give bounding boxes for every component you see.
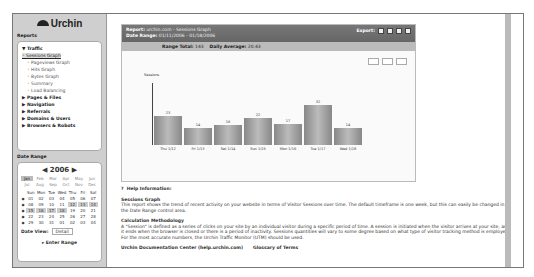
enter-range-link[interactable]: ▸ Enter Range [21,240,98,245]
nav-item[interactable]: ◦ Hits Graph [22,66,97,73]
bar-chart-icon[interactable] [368,58,379,65]
nav-item[interactable]: ◦ Summary [22,80,97,87]
day-cell[interactable]: 28 [89,214,98,219]
documentation-link[interactable]: Urchin Documentation Center (help.urchin… [121,245,243,251]
date-range-title: Date Range [13,153,106,160]
urchin-logo-icon [37,20,49,26]
nav-item[interactable]: ▶ Referrals [22,108,97,115]
day-cell[interactable]: 21 [89,208,98,213]
day-cell[interactable]: 27 [78,214,87,219]
month-cell[interactable]: Jun [86,176,98,181]
day-cell[interactable]: 09 [36,202,45,207]
month-cell[interactable]: Jan [21,176,33,181]
day-cell[interactable]: 19 [68,208,77,213]
glossary-link[interactable]: Glossary of Terms [253,245,298,251]
month-cell[interactable]: Nov [73,182,85,187]
day-cell[interactable]: 08 [26,202,35,207]
nav-item[interactable]: ▼ Traffic [22,45,97,52]
nav-item[interactable]: ◦ Load Balancing [22,87,97,94]
report-header: Report: urchin.com - Sessions Graph Date… [122,25,415,42]
month-cell[interactable]: Aug [34,182,46,187]
export-xml-icon[interactable] [387,28,393,34]
month-grid: JanFebMarAprMayJunJulAugSepOctNovDec [21,176,98,187]
week-select[interactable]: ◆ [21,196,25,201]
day-cell[interactable]: 04 [89,220,98,225]
month-cell[interactable]: May [73,176,85,181]
nav-item[interactable]: ◦ Pageviews Graph [22,59,97,66]
export-toolbar: Export: [357,28,411,34]
line-chart-icon[interactable] [396,58,407,65]
day-cell[interactable]: 24 [47,214,56,219]
day-cell[interactable]: 16 [36,208,45,213]
month-cell[interactable]: Oct [60,182,72,187]
bar: 32Tue 1/17 [304,105,332,145]
week-select[interactable]: ◆ [21,208,25,213]
reports-nav: ▼ Traffic◦ Sessions Graph◦ Pageviews Gra… [17,41,102,151]
day-cell[interactable]: 12 [68,202,77,207]
calendar: ◀ 2006 ▶ JanFebMarAprMayJunJulAugSepOctN… [17,162,102,262]
day-cell[interactable]: 20 [78,208,87,213]
bar: 14Fri 1/13 [184,128,212,145]
day-cell[interactable]: 02 [68,220,77,225]
day-cell[interactable]: 10 [47,202,56,207]
nav-item[interactable]: ▶ Browsers & Robots [22,122,97,129]
month-cell[interactable]: Sep [47,182,59,187]
bar-series: 23Thu 1/1214Fri 1/1316Sat 1/1422Sun 1/15… [153,83,363,145]
nav-item[interactable]: ◦ Sessions Graph [22,52,97,59]
main-content: Report: urchin.com - Sessions Graph Date… [111,14,511,267]
sessions-chart: Sessions 23Thu 1/1214Fri 1/1316Sat 1/142… [152,75,372,175]
help-icon: ? [121,186,124,192]
nav-item[interactable]: ▶ Domains & Users [22,115,97,122]
month-cell[interactable]: Apr [60,176,72,181]
year-selector[interactable]: ◀ 2006 ▶ [21,166,98,174]
day-cell[interactable]: 03 [78,220,87,225]
day-cell[interactable]: 26 [68,214,77,219]
urchin-logo: Urchin [13,14,106,32]
app-window: Urchin Reports ▼ Traffic◦ Sessions Graph… [12,13,524,268]
day-cell[interactable]: 01 [57,220,66,225]
day-cell[interactable]: 22 [26,214,35,219]
day-cell[interactable]: 03 [47,196,56,201]
day-cell[interactable]: 14 [89,202,98,207]
month-cell[interactable]: Feb [34,176,46,181]
scrollbar[interactable] [505,14,511,267]
week-select[interactable]: ◆ [21,220,25,225]
bar: 22Sun 1/15 [244,118,272,145]
day-cell[interactable]: 29 [26,220,35,225]
month-cell[interactable]: Jul [21,182,33,187]
day-cell[interactable]: 11 [57,202,66,207]
date-view-select[interactable]: Detail [52,228,73,235]
month-cell[interactable]: Dec [86,182,98,187]
day-cell[interactable]: 13 [78,202,87,207]
bar-chart-3d-icon[interactable] [382,58,393,65]
day-cell[interactable]: 25 [57,214,66,219]
nav-item[interactable]: ◦ Bytes Graph [22,73,97,80]
day-cell[interactable]: 05 [68,196,77,201]
day-cell[interactable]: 30 [36,220,45,225]
day-cell[interactable]: 17 [47,208,56,213]
print-icon[interactable] [405,28,411,34]
nav-item[interactable]: ▶ Pages & Files [22,94,97,101]
help-section: ?Help Information: Sessions Graph This r… [121,186,511,251]
day-cell[interactable]: 31 [47,220,56,225]
day-grid: SunMonTueWedThuFriSat◆01020304050607◆080… [21,190,98,225]
day-cell[interactable]: 01 [26,196,35,201]
day-cell[interactable]: 15 [26,208,35,213]
sidebar: Urchin Reports ▼ Traffic◦ Sessions Graph… [13,14,107,267]
bar: 23Thu 1/12 [154,116,182,145]
date-view: Date View: Detail [21,228,98,235]
day-cell[interactable]: 06 [78,196,87,201]
day-cell[interactable]: 18 [57,208,66,213]
export-excel-icon[interactable] [396,28,402,34]
bar: 14Wed 1/18 [334,128,362,145]
week-select[interactable]: ◆ [21,214,25,219]
report-summary: Range Total: 143 Daily Average: 20.43 [122,42,415,51]
day-cell[interactable]: 07 [89,196,98,201]
week-select[interactable]: ◆ [21,202,25,207]
day-cell[interactable]: 02 [36,196,45,201]
nav-item[interactable]: ▶ Navigation [22,101,97,108]
month-cell[interactable]: Mar [47,176,59,181]
export-pdf-icon[interactable] [378,28,384,34]
day-cell[interactable]: 04 [57,196,66,201]
day-cell[interactable]: 23 [36,214,45,219]
